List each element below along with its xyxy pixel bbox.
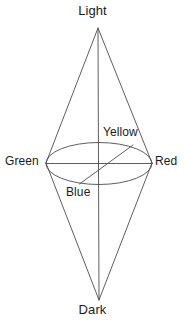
color-bicone-diagram: Light Dark Green Red Yellow Blue <box>0 0 185 324</box>
label-yellow: Yellow <box>103 126 138 139</box>
label-blue: Blue <box>66 186 90 199</box>
label-dark: Dark <box>0 303 185 317</box>
label-light: Light <box>0 4 185 18</box>
label-green: Green <box>5 155 39 168</box>
label-red: Red <box>155 155 177 168</box>
